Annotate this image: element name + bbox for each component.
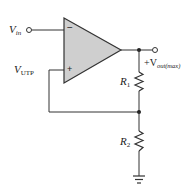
inverting-input-sign: −: [67, 23, 73, 33]
vin-label-sub: in: [16, 29, 21, 37]
vin-terminal-icon: [27, 28, 32, 33]
r1-resistor-icon: [135, 50, 143, 112]
vutp-label-main: V: [14, 63, 21, 75]
vutp-label: VUTP: [14, 64, 34, 77]
vout-label-sub: out(max): [157, 62, 180, 69]
vin-label-main: V: [9, 23, 16, 35]
noninverting-input-sign: +: [67, 65, 72, 74]
circuit-diagram: [0, 0, 192, 191]
r2-label-main: R: [120, 135, 127, 147]
r1-label-main: R: [120, 75, 127, 87]
vout-label-main: +V: [144, 57, 157, 68]
r2-resistor-icon: [135, 112, 143, 176]
r2-label: R2: [120, 136, 130, 149]
vutp-label-sub: UTP: [21, 69, 34, 77]
r2-label-sub: 2: [127, 141, 131, 149]
vout-terminal-icon: [153, 48, 158, 53]
ground-icon: [133, 176, 145, 183]
vout-label: +Vout(max): [144, 58, 180, 70]
r1-label-sub: 1: [127, 81, 131, 89]
r1-label: R1: [120, 76, 130, 89]
vin-label: Vin: [9, 24, 21, 37]
